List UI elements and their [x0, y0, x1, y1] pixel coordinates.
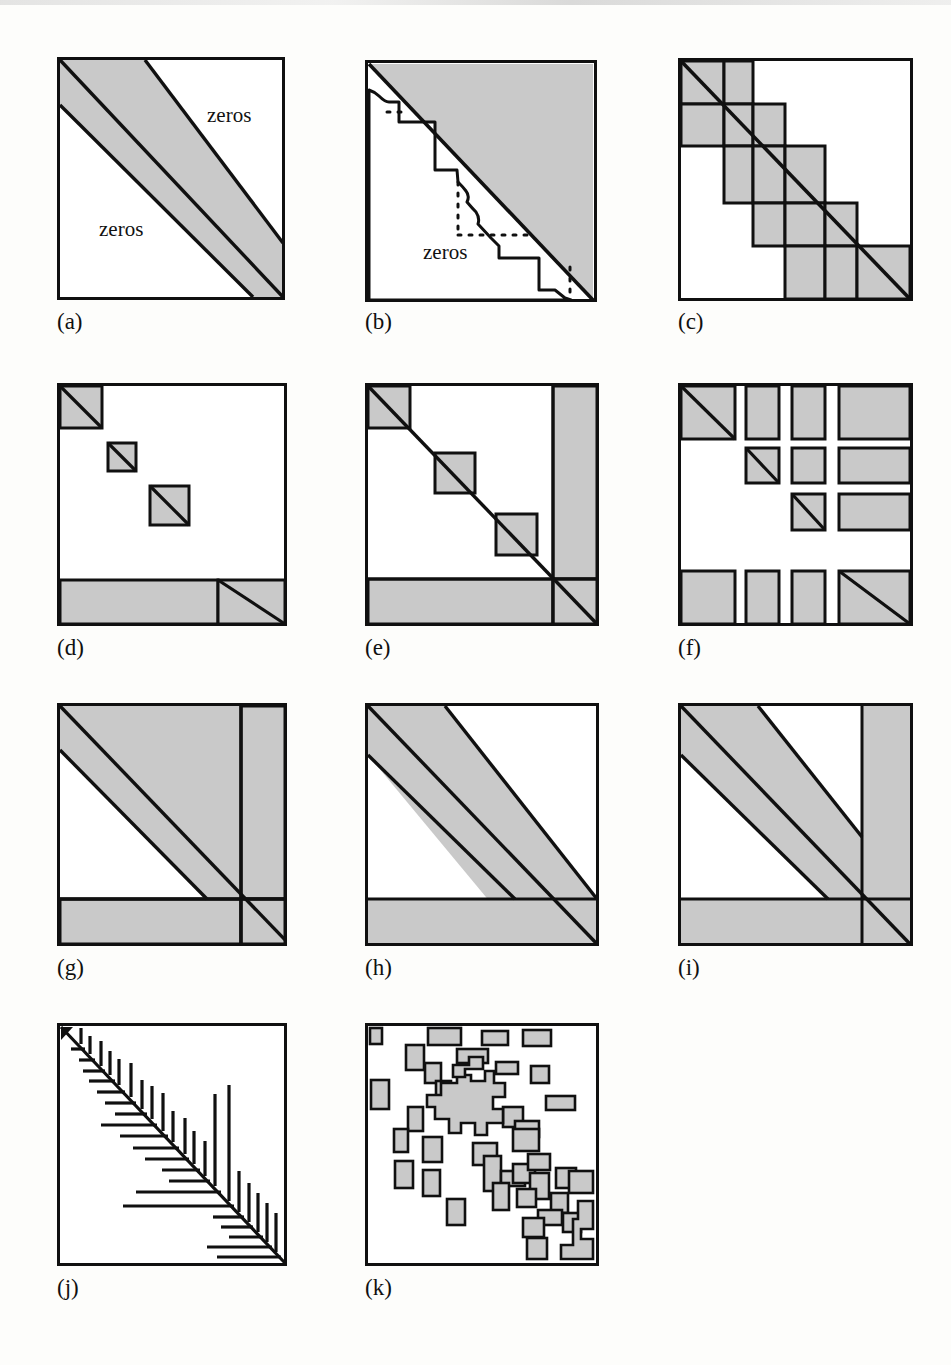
panel-b-skyline-matrix: zeros [365, 60, 597, 302]
panel-d-singly-bordered-block-diagonal [57, 383, 287, 626]
panel-label-i: (i) [678, 956, 700, 979]
panel-label-d: (d) [57, 636, 84, 659]
zeros-label-upper: zeros [207, 103, 251, 128]
panel-f-block-staircase [678, 383, 913, 626]
page-edge-artifact [0, 0, 951, 5]
panel-h-banded-with-row-border [365, 703, 599, 946]
panel-j-elimination-tree-spikes [57, 1023, 287, 1266]
zeros-label: zeros [423, 240, 467, 265]
panel-label-b: (b) [365, 310, 392, 333]
panel-label-a: (a) [57, 310, 83, 333]
panel-g-bordered-triangular [57, 703, 287, 946]
panel-label-f: (f) [678, 636, 701, 659]
panel-label-g: (g) [57, 956, 84, 979]
panel-label-e: (e) [365, 636, 391, 659]
panel-label-k: (k) [365, 1276, 392, 1299]
zeros-label-lower: zeros [99, 217, 143, 242]
panel-a-banded-matrix: zeros zeros [57, 57, 285, 300]
sparse-matrix-structures-figure: zeros zeros (a) zeros (b) [0, 0, 951, 1365]
panel-label-h: (h) [365, 956, 392, 979]
panel-label-c: (c) [678, 310, 704, 333]
panel-k-general-irregular-sparse [365, 1023, 599, 1266]
panel-i-banded-with-row-and-column-border [678, 703, 913, 946]
panel-c-block-tridiagonal [678, 58, 913, 301]
panel-label-j: (j) [57, 1276, 79, 1299]
bleedthrough-artifact [330, 243, 334, 260]
panel-e-doubly-bordered-block-diagonal [365, 383, 599, 626]
